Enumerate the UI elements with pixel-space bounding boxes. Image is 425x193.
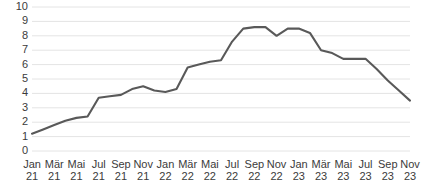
x-axis-tick-month: Nov — [393, 158, 425, 170]
x-axis-tick-year: 23 — [393, 170, 425, 182]
x-axis-tick-label: Nov23 — [393, 158, 425, 182]
